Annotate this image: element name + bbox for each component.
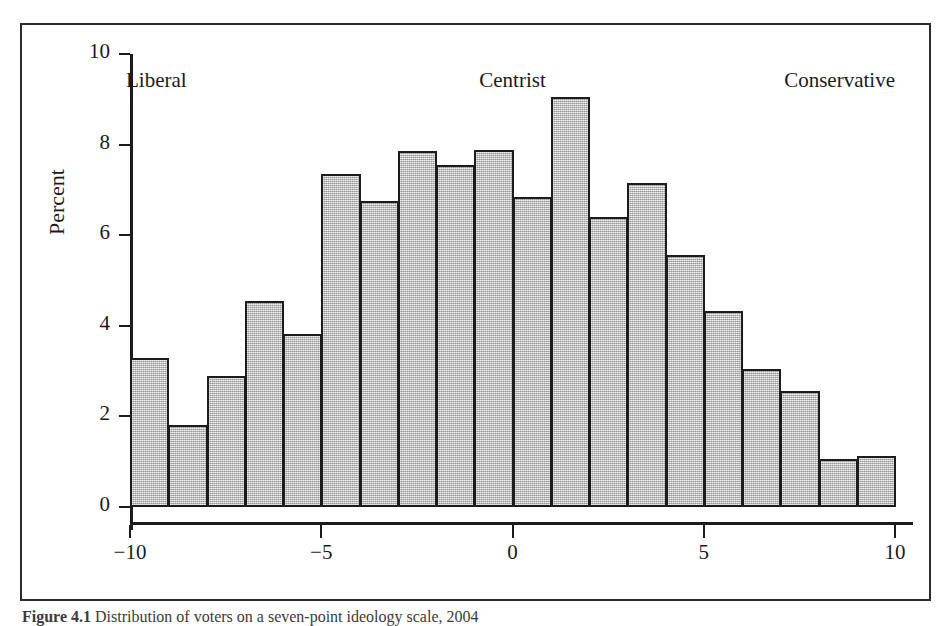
- histogram-bar: [245, 301, 284, 507]
- figure-caption: Figure 4.1 Distribution of voters on a s…: [22, 607, 932, 626]
- figure-frame: Percent 0246810 −10−50510 LiberalCentris…: [20, 23, 931, 601]
- histogram-bar: [168, 425, 207, 507]
- histogram-bar: [360, 201, 399, 507]
- histogram-bar: [321, 174, 360, 507]
- figure-caption-label: Figure 4.1: [22, 608, 91, 625]
- histogram-bar: [589, 217, 628, 507]
- histogram-bar: [742, 369, 781, 507]
- figure-caption-text: Distribution of voters on a seven-point …: [95, 608, 478, 625]
- histogram-bar: [551, 97, 590, 507]
- histogram-bar: [130, 358, 169, 507]
- histogram-bars: [22, 25, 933, 603]
- histogram-bar: [780, 391, 819, 507]
- histogram-bar: [666, 255, 705, 507]
- histogram-bar: [513, 197, 552, 507]
- histogram-bar: [627, 183, 666, 507]
- histogram-bar: [474, 150, 513, 507]
- plot-area: Percent 0246810 −10−50510 LiberalCentris…: [22, 25, 933, 603]
- histogram-bar: [857, 456, 896, 507]
- histogram-bar: [207, 376, 246, 507]
- histogram-bar: [704, 311, 743, 507]
- histogram-bar: [819, 459, 858, 507]
- histogram-bar: [436, 165, 475, 507]
- histogram-bar: [398, 151, 437, 507]
- histogram-bar: [283, 334, 322, 507]
